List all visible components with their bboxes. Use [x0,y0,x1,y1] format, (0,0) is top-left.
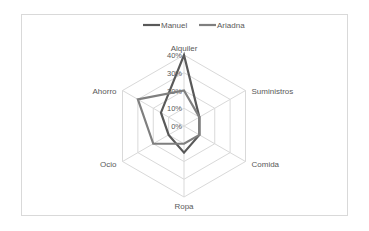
legend-label: Manuel [161,21,187,30]
category-label-ahorro: Ahorro [92,87,117,96]
legend: ManuelAriadna [143,21,245,30]
category-label-ocio: Ocio [100,160,117,169]
legend-label: Ariadna [217,21,245,30]
legend-item-manuel: Manuel [143,21,187,30]
radar-chart: 0%10%20%30%40% AlquilerSuministrosComida… [0,0,369,231]
category-label-suministros: Suministros [251,87,293,96]
category-label-comida: Comida [251,160,279,169]
category-label-alquiler: Alquiler [171,44,198,53]
radar-grid [123,55,246,197]
legend-item-ariadna: Ariadna [199,21,245,30]
radial-tick-label: 10% [167,104,182,113]
category-label-ropa: Ropa [174,202,194,211]
radial-tick-label: 0% [171,122,182,131]
